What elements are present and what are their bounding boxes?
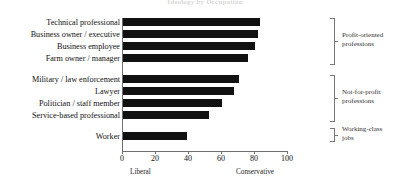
bar-business-owner-executive — [123, 30, 258, 38]
plot-area — [122, 18, 287, 151]
group-label-profit-oriented: Profit-oriented professions — [342, 31, 410, 48]
x-tick-label-100: 100 — [281, 154, 293, 164]
x-tick-label-0: 0 — [120, 154, 124, 164]
bracket-nub-working-class — [335, 135, 338, 136]
y-axis-label-politician-staff-member: Politician / staff member — [2, 99, 120, 108]
y-axis-label-lawyer: Lawyer — [2, 87, 120, 96]
axis-caption-conservative: Conservative — [236, 168, 274, 176]
y-axis-label-business-employee: Business employee — [2, 42, 120, 51]
group-label-not-for-profit: Not-for-profit professions — [342, 88, 410, 105]
y-axis-label-worker: Worker — [2, 132, 120, 141]
axis-caption-liberal: Liberal — [130, 168, 151, 176]
group-label-profit-oriented-line1: Profit-oriented — [342, 31, 383, 39]
bar-worker — [123, 132, 187, 140]
y-axis-label-business-owner-executive: Business owner / executive — [2, 30, 120, 39]
x-tick-label-20: 20 — [151, 154, 159, 164]
group-label-working-class-line2: jobs — [342, 134, 354, 142]
group-label-not-for-profit-line1: Not-for-profit — [342, 88, 381, 96]
bracket-nub-not-for-profit — [335, 98, 338, 99]
group-label-working-class: Working-class jobs — [342, 125, 410, 142]
y-axis-label-service-based-professional: Service-based professional — [2, 111, 120, 120]
group-label-working-class-line1: Working-class — [342, 125, 382, 133]
x-tick-label-40: 40 — [184, 154, 192, 164]
bar-lawyer — [123, 87, 234, 95]
x-axis-ticks: 0 20 40 60 80 100 — [122, 151, 292, 165]
x-tick-label-60: 60 — [217, 154, 225, 164]
y-axis-label-farm-owner-manager: Farm owner / manager — [2, 54, 120, 63]
y-axis-label-technical-professional: Technical professional — [2, 18, 120, 27]
group-label-not-for-profit-line2: professions — [342, 97, 374, 105]
y-axis-label-military-law-enforcement: Military / law enforcement — [2, 75, 120, 84]
bar-technical-professional — [123, 18, 260, 26]
y-axis-category-labels: Technical professional Business owner / … — [0, 18, 120, 151]
bar-politician-staff-member — [123, 99, 222, 107]
bar-military-law-enforcement — [123, 75, 239, 83]
bar-business-employee — [123, 42, 255, 50]
bar-farm-owner-manager — [123, 54, 248, 62]
bracket-nub-profit-oriented — [335, 41, 338, 42]
group-label-profit-oriented-line2: professions — [342, 40, 374, 48]
x-tick-label-80: 80 — [250, 154, 258, 164]
chart-figure: Ideology by Occupation Technical profess… — [0, 0, 410, 183]
chart-title: Ideology by Occupation — [0, 0, 410, 6]
bar-service-based-professional — [123, 111, 209, 119]
